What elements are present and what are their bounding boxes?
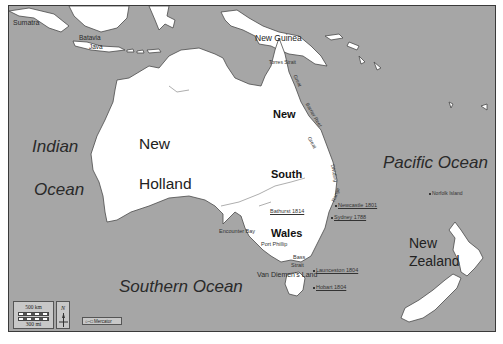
hobart-marker (313, 287, 315, 289)
scale-bar-km (18, 312, 49, 316)
new-zealand-label-line2: Zealand (409, 254, 460, 268)
settlement-bathurst: Bathurst 1814 (270, 209, 304, 215)
bass-strait-label-1: Bass (293, 255, 305, 261)
scale-mi-label: 300 mi (14, 321, 53, 327)
indian-ocean-label-line2: Ocean (34, 181, 84, 198)
sumatra-label: Sumatra (13, 19, 39, 26)
borneo-landmass (69, 6, 129, 32)
sydney-marker (331, 217, 333, 219)
new-holland-label-line1: New (139, 136, 170, 152)
new-zealand-label-line1: New (409, 236, 437, 250)
indian-ocean-label: Indian (32, 138, 78, 155)
bass-strait-label-2: Strait (291, 263, 304, 269)
norfolk-island-label: Norfolk Island (429, 191, 463, 196)
nsw-label-line2: South (271, 169, 302, 180)
scale-km-label: 500 km (14, 304, 53, 310)
new-holland-label-line2: Holland (139, 176, 192, 192)
scale-bar: 500 km 300 mi (13, 301, 54, 329)
norfolk-island-marker (429, 193, 431, 195)
encounter-bay-label: Encounter Bay (219, 229, 255, 235)
nz-south-island (401, 274, 461, 322)
settlement-newcastle: Newcastle 1801 (335, 203, 377, 209)
launceston-marker (313, 270, 315, 272)
batavia-label: Batavia (79, 35, 101, 42)
pacific-ocean-label: Pacific Ocean (383, 154, 488, 171)
new-guinea-label: New Guinea (255, 34, 302, 43)
torres-strait-label: Torres Strait (269, 60, 296, 65)
map-frame: Indian Ocean Pacific Ocean Southern Ocea… (8, 5, 496, 332)
java-label: Java (89, 44, 103, 51)
settlement-hobart: Hobart 1804 (313, 285, 346, 291)
nsw-label-line3: Wales (271, 228, 302, 239)
north-label: N (57, 305, 69, 311)
southern-ocean-label: Southern Ocean (119, 278, 243, 295)
projection-label: Mercator (94, 319, 112, 324)
settlement-sydney: Sydney 1788 (331, 215, 366, 221)
newcastle-marker (335, 205, 337, 207)
settlement-launceston: Launceston 1804 (313, 268, 358, 274)
van-diemens-land-label: Van Diemen's Land (257, 271, 317, 278)
port-phillip-label: Port Phillip (261, 242, 287, 248)
projection-icon: ○–□ (85, 319, 93, 324)
projection-label-box: ○–□ Mercator (82, 317, 122, 325)
compass-icon (59, 313, 68, 327)
north-arrow: N (56, 301, 70, 329)
nsw-label-line1: New (273, 109, 296, 120)
